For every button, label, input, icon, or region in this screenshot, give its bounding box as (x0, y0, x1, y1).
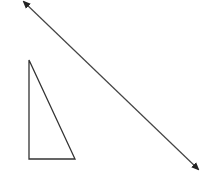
double-arrow-line (24, 2, 198, 169)
diagram-canvas (0, 0, 209, 178)
right-triangle (29, 60, 75, 159)
